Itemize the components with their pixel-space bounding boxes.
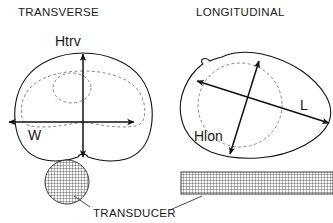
figure-root: TRANSVERSE LONGITUDINAL Htrv W L Hlon bbox=[0, 0, 333, 223]
hlon-dimension-label: Hlon bbox=[194, 128, 223, 144]
longitudinal-organ-group: L Hlon bbox=[180, 52, 330, 158]
transducer-label: TRANSDUCER bbox=[93, 207, 176, 219]
l-dimension-label: L bbox=[300, 97, 308, 113]
panel-title-longitudinal: LONGITUDINAL bbox=[196, 6, 285, 18]
htrv-dimension-label: Htrv bbox=[55, 33, 81, 49]
w-dimension-label: W bbox=[28, 127, 42, 143]
transverse-organ-group: Htrv W bbox=[9, 33, 152, 161]
ultrasound-measurement-diagram: TRANSVERSE LONGITUDINAL Htrv W L Hlon bbox=[0, 0, 333, 223]
panel-title-transverse: TRANSVERSE bbox=[18, 6, 99, 18]
l-dimension-arrow bbox=[197, 81, 329, 123]
circular-transducer-probe bbox=[45, 160, 89, 204]
transverse-nucleus-circle bbox=[53, 73, 91, 103]
hlon-dimension-arrow bbox=[230, 61, 259, 154]
linear-transducer-probe bbox=[181, 172, 333, 194]
